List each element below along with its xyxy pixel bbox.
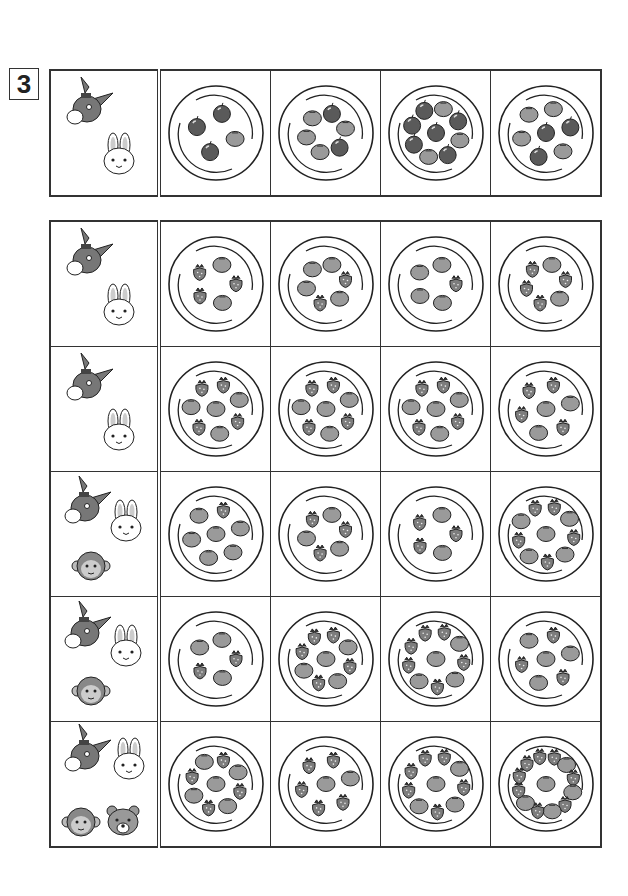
orange-icon bbox=[322, 507, 340, 522]
plate-cell[interactable] bbox=[271, 70, 381, 196]
animals-illustration bbox=[51, 722, 157, 846]
plate-icon bbox=[276, 234, 376, 334]
plate-cell[interactable] bbox=[159, 472, 271, 597]
example-row bbox=[50, 70, 601, 196]
orange-icon bbox=[553, 144, 571, 159]
plate-cell[interactable] bbox=[381, 472, 491, 597]
plate-cell[interactable] bbox=[159, 221, 271, 347]
orange-icon bbox=[520, 633, 538, 648]
plate-cell[interactable] bbox=[159, 597, 271, 722]
plate-cell[interactable] bbox=[381, 221, 491, 347]
plate-cell[interactable] bbox=[159, 722, 271, 848]
orange-icon bbox=[550, 291, 568, 306]
plate-icon bbox=[496, 484, 596, 584]
exercise-table bbox=[49, 220, 602, 848]
monkey-icon bbox=[72, 677, 110, 705]
orange-icon bbox=[430, 426, 448, 441]
animals-cell bbox=[50, 347, 159, 472]
plate-cell[interactable] bbox=[491, 221, 602, 347]
orange-icon bbox=[520, 107, 538, 122]
orange-icon bbox=[212, 632, 230, 647]
exercise-row bbox=[50, 472, 601, 597]
plate-cell[interactable] bbox=[491, 722, 602, 848]
plate-cell[interactable] bbox=[271, 221, 381, 347]
orange-icon bbox=[410, 265, 428, 280]
plate-icon bbox=[166, 484, 266, 584]
plate-cell[interactable] bbox=[491, 70, 602, 196]
orange-icon bbox=[190, 508, 208, 523]
plate-cell[interactable] bbox=[159, 347, 271, 472]
orange-icon bbox=[294, 663, 312, 678]
plate-cell[interactable] bbox=[271, 597, 381, 722]
orange-icon bbox=[320, 426, 338, 441]
plate-icon bbox=[496, 234, 596, 334]
monkey-icon bbox=[72, 552, 110, 580]
plate-cell[interactable] bbox=[271, 472, 381, 597]
orange-icon bbox=[512, 514, 530, 529]
plate-cell[interactable] bbox=[491, 472, 602, 597]
plate-cell[interactable] bbox=[381, 722, 491, 848]
orange-icon bbox=[207, 527, 225, 542]
orange-icon bbox=[561, 646, 579, 661]
orange-icon bbox=[560, 511, 578, 526]
plate-icon bbox=[496, 83, 596, 183]
orange-icon bbox=[330, 541, 348, 556]
orange-icon bbox=[212, 257, 230, 272]
orange-icon bbox=[402, 400, 420, 415]
donkey-icon bbox=[67, 77, 113, 124]
plate-icon bbox=[276, 734, 376, 834]
orange-icon bbox=[450, 761, 468, 776]
plate-cell[interactable] bbox=[491, 597, 602, 722]
rabbit-icon bbox=[104, 409, 134, 450]
orange-icon bbox=[410, 288, 428, 303]
plate-icon bbox=[386, 734, 486, 834]
plate-icon bbox=[496, 734, 596, 834]
orange-icon bbox=[450, 133, 468, 148]
orange-icon bbox=[427, 777, 445, 792]
plate-icon bbox=[166, 359, 266, 459]
rabbit-icon bbox=[114, 738, 144, 779]
orange-icon bbox=[432, 257, 450, 272]
orange-icon bbox=[328, 674, 346, 689]
plate-cell[interactable] bbox=[271, 347, 381, 472]
donkey-icon bbox=[67, 228, 113, 275]
orange-icon bbox=[317, 402, 335, 417]
plate-cell[interactable] bbox=[381, 70, 491, 196]
orange-icon bbox=[556, 547, 574, 562]
monkey-icon bbox=[62, 808, 100, 836]
plate-cell[interactable] bbox=[159, 70, 271, 196]
animals-cell bbox=[50, 472, 159, 597]
rabbit-icon bbox=[104, 284, 134, 325]
plate-cell[interactable] bbox=[381, 597, 491, 722]
rabbit-icon bbox=[104, 133, 134, 174]
exercise-row bbox=[50, 347, 601, 472]
orange-icon bbox=[182, 532, 200, 547]
orange-icon bbox=[520, 549, 538, 564]
animals-cell bbox=[50, 70, 159, 196]
plate-cell[interactable] bbox=[491, 347, 602, 472]
plate-icon bbox=[386, 484, 486, 584]
orange-icon bbox=[330, 291, 348, 306]
orange-icon bbox=[195, 754, 213, 769]
orange-icon bbox=[537, 777, 555, 792]
orange-icon bbox=[410, 674, 428, 689]
orange-icon bbox=[297, 531, 315, 546]
orange-icon bbox=[434, 102, 452, 117]
orange-icon bbox=[226, 131, 244, 146]
plate-icon bbox=[276, 609, 376, 709]
orange-icon bbox=[427, 652, 445, 667]
plate-icon bbox=[496, 359, 596, 459]
donkey-icon bbox=[67, 353, 113, 400]
animals-illustration bbox=[51, 472, 157, 596]
plate-icon bbox=[276, 359, 376, 459]
animals-illustration bbox=[51, 597, 157, 721]
plate-cell[interactable] bbox=[271, 722, 381, 848]
animals-illustration bbox=[51, 347, 157, 471]
plate-icon bbox=[166, 734, 266, 834]
orange-icon bbox=[446, 797, 464, 812]
orange-icon bbox=[230, 392, 248, 407]
plate-icon bbox=[276, 83, 376, 183]
plate-cell[interactable] bbox=[381, 347, 491, 472]
orange-icon bbox=[303, 111, 321, 126]
plate-icon bbox=[276, 484, 376, 584]
